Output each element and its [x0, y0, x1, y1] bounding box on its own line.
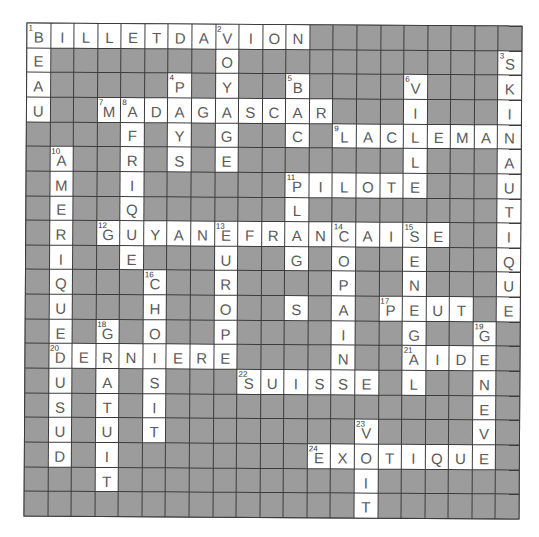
- letter-cell[interactable]: T: [498, 199, 521, 223]
- letter-cell[interactable]: I: [498, 224, 521, 248]
- letter-cell[interactable]: 6V: [404, 75, 427, 99]
- letter-cell[interactable]: D: [450, 347, 473, 371]
- letter-cell[interactable]: A: [475, 125, 498, 149]
- letter-cell[interactable]: L: [402, 371, 425, 395]
- letter-cell[interactable]: I: [143, 345, 166, 369]
- letter-cell[interactable]: E: [214, 345, 237, 369]
- letter-cell[interactable]: E: [120, 246, 143, 270]
- letter-cell[interactable]: H: [144, 295, 167, 319]
- letter-cell[interactable]: O: [263, 25, 286, 49]
- letter-cell[interactable]: E: [404, 174, 427, 198]
- letter-cell[interactable]: 14C: [333, 223, 356, 247]
- letter-cell[interactable]: A: [168, 98, 191, 122]
- letter-cell[interactable]: F: [121, 123, 144, 147]
- letter-cell[interactable]: I: [143, 394, 166, 418]
- letter-cell[interactable]: O: [214, 296, 237, 320]
- letter-cell[interactable]: D: [48, 443, 71, 467]
- letter-cell[interactable]: P: [214, 320, 237, 344]
- letter-cell[interactable]: 24E: [308, 444, 331, 468]
- letter-cell[interactable]: U: [449, 445, 472, 469]
- letter-cell[interactable]: I: [402, 445, 425, 469]
- letter-cell[interactable]: R: [121, 147, 144, 171]
- letter-cell[interactable]: Y: [144, 221, 167, 245]
- letter-cell[interactable]: A: [96, 369, 119, 393]
- letter-cell[interactable]: 23V: [355, 420, 378, 444]
- letter-cell[interactable]: G: [285, 247, 308, 271]
- letter-cell[interactable]: 10A: [50, 147, 73, 171]
- letter-cell[interactable]: S: [168, 148, 191, 172]
- letter-cell[interactable]: Y: [168, 123, 191, 147]
- letter-cell[interactable]: R: [96, 344, 119, 368]
- letter-cell[interactable]: A: [192, 25, 215, 49]
- letter-cell[interactable]: A: [286, 99, 309, 123]
- letter-cell[interactable]: 4P: [168, 74, 191, 98]
- letter-cell[interactable]: S: [285, 296, 308, 320]
- letter-cell[interactable]: L: [404, 124, 427, 148]
- letter-cell[interactable]: 15S: [403, 223, 426, 247]
- letter-cell[interactable]: Q: [121, 197, 144, 221]
- letter-cell[interactable]: E: [403, 248, 426, 272]
- letter-cell[interactable]: M: [451, 125, 474, 149]
- letter-cell[interactable]: U: [96, 418, 119, 442]
- letter-cell[interactable]: R: [214, 271, 237, 295]
- letter-cell[interactable]: E: [167, 345, 190, 369]
- letter-cell[interactable]: A: [27, 73, 50, 97]
- letter-cell[interactable]: T: [143, 419, 166, 443]
- letter-cell[interactable]: Q: [49, 270, 72, 294]
- letter-cell[interactable]: C: [263, 99, 286, 123]
- letter-cell[interactable]: G: [192, 98, 215, 122]
- letter-cell[interactable]: E: [27, 48, 50, 72]
- letter-cell[interactable]: U: [261, 370, 284, 394]
- letter-cell[interactable]: L: [98, 24, 121, 48]
- letter-cell[interactable]: S: [49, 393, 72, 417]
- letter-cell[interactable]: 21A: [403, 346, 426, 370]
- letter-cell[interactable]: N: [332, 346, 355, 370]
- letter-cell[interactable]: E: [403, 297, 426, 321]
- letter-cell[interactable]: T: [96, 394, 119, 418]
- letter-cell[interactable]: U: [27, 97, 50, 121]
- letter-cell[interactable]: X: [331, 444, 354, 468]
- letter-cell[interactable]: E: [122, 24, 145, 48]
- letter-cell[interactable]: A: [168, 222, 191, 246]
- letter-cell[interactable]: U: [497, 273, 520, 297]
- letter-cell[interactable]: I: [404, 100, 427, 124]
- letter-cell[interactable]: F: [238, 222, 261, 246]
- letter-cell[interactable]: S: [308, 370, 331, 394]
- letter-cell[interactable]: I: [121, 172, 144, 196]
- letter-cell[interactable]: T: [145, 24, 168, 48]
- letter-cell[interactable]: 12G: [97, 221, 120, 245]
- letter-cell[interactable]: E: [427, 125, 450, 149]
- letter-cell[interactable]: E: [427, 223, 450, 247]
- letter-cell[interactable]: E: [49, 319, 72, 343]
- letter-cell[interactable]: K: [498, 76, 521, 100]
- letter-cell[interactable]: G: [403, 322, 426, 346]
- letter-cell[interactable]: C: [286, 124, 309, 148]
- letter-cell[interactable]: R: [262, 222, 285, 246]
- letter-cell[interactable]: 20D: [49, 344, 72, 368]
- letter-cell[interactable]: I: [96, 443, 119, 467]
- letter-cell[interactable]: I: [426, 346, 449, 370]
- letter-cell[interactable]: A: [356, 223, 379, 247]
- letter-cell[interactable]: A: [285, 222, 308, 246]
- letter-cell[interactable]: 22S: [237, 370, 260, 394]
- letter-cell[interactable]: U: [498, 174, 521, 198]
- letter-cell[interactable]: U: [215, 246, 238, 270]
- letter-cell[interactable]: 17P: [379, 297, 402, 321]
- letter-cell[interactable]: U: [49, 418, 72, 442]
- letter-cell[interactable]: N: [287, 25, 310, 49]
- letter-cell[interactable]: O: [216, 49, 239, 73]
- letter-cell[interactable]: I: [355, 469, 378, 493]
- letter-cell[interactable]: L: [286, 198, 309, 222]
- letter-cell[interactable]: U: [49, 295, 72, 319]
- letter-cell[interactable]: I: [239, 25, 262, 49]
- letter-cell[interactable]: S: [143, 369, 166, 393]
- letter-cell[interactable]: Q: [425, 445, 448, 469]
- letter-cell[interactable]: D: [169, 24, 192, 48]
- letter-cell[interactable]: 5B: [286, 74, 309, 98]
- letter-cell[interactable]: N: [120, 345, 143, 369]
- letter-cell[interactable]: 3S: [499, 51, 522, 75]
- letter-cell[interactable]: L: [75, 24, 98, 48]
- letter-cell[interactable]: G: [215, 123, 238, 147]
- letter-cell[interactable]: N: [309, 222, 332, 246]
- letter-cell[interactable]: O: [355, 445, 378, 469]
